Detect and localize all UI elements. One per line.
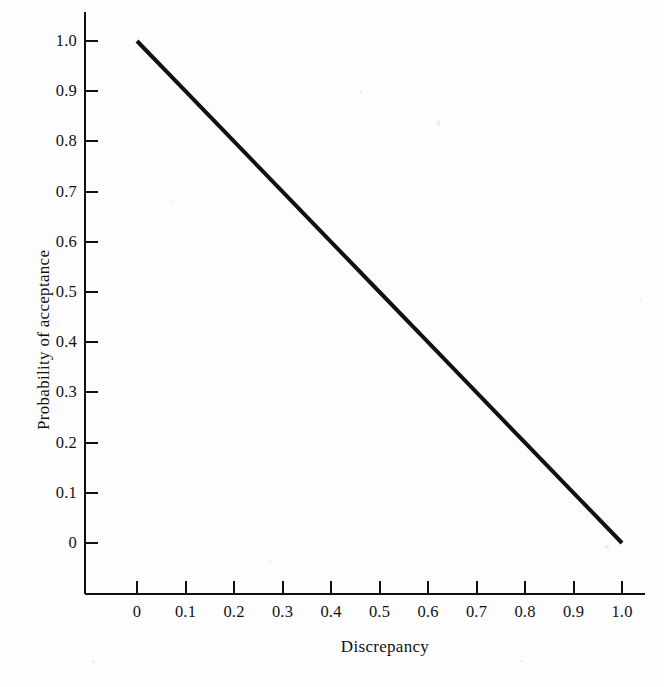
x-tick-label: 0.3 bbox=[272, 604, 293, 621]
plot-area bbox=[0, 0, 664, 687]
x-tick-label: 0.1 bbox=[175, 604, 196, 621]
tick-marks bbox=[85, 41, 622, 594]
y-axis-title: Probability of acceptance bbox=[34, 250, 54, 430]
x-tick-label: 0 bbox=[133, 604, 141, 621]
y-tick-label: 0.7 bbox=[30, 183, 77, 200]
x-tick-label: 0.4 bbox=[320, 604, 341, 621]
x-tick-label: 0.9 bbox=[563, 604, 584, 621]
y-tick-label: 0.9 bbox=[30, 83, 77, 100]
x-axis-title: Discrepancy bbox=[341, 637, 429, 657]
y-tick-label: 0.1 bbox=[30, 485, 77, 502]
y-tick-label: 1.0 bbox=[30, 33, 77, 50]
y-tick-label: 0.6 bbox=[30, 234, 77, 251]
x-tick-label: 0.8 bbox=[514, 604, 535, 621]
x-tick-label: 0.6 bbox=[417, 604, 438, 621]
x-tick-label: 0.5 bbox=[369, 604, 390, 621]
x-tick-label: 0.2 bbox=[223, 604, 244, 621]
y-tick-label: 0.2 bbox=[30, 434, 77, 451]
data-series bbox=[137, 41, 622, 543]
chart-figure: 00.10.20.30.40.50.60.70.80.91.0 00.10.20… bbox=[0, 0, 664, 687]
x-tick-label: 1.0 bbox=[611, 604, 632, 621]
y-tick-label: 0.8 bbox=[30, 133, 77, 150]
axes bbox=[85, 12, 645, 594]
y-tick-label: 0 bbox=[30, 535, 77, 552]
x-tick-label: 0.7 bbox=[466, 604, 487, 621]
